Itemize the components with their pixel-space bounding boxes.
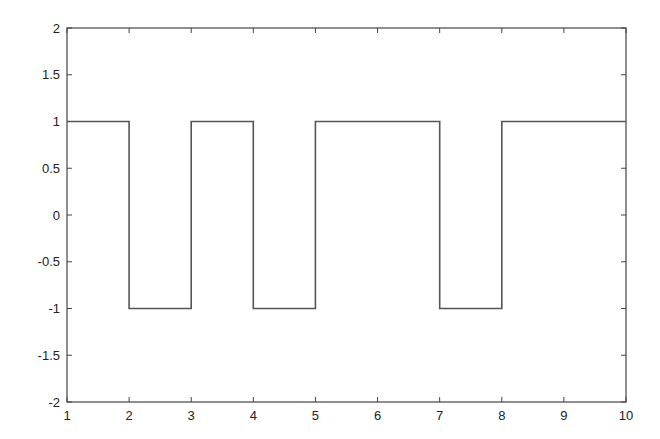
x-tick-label: 9: [560, 408, 567, 423]
x-tick-label: 3: [188, 408, 195, 423]
x-axis: 12345678910: [63, 28, 633, 423]
y-tick-label: 0: [53, 208, 60, 223]
square-wave-line: [67, 122, 626, 309]
axes-box: [67, 28, 626, 402]
chart: 21.510.50-0.5-1-1.5-2 12345678910: [0, 0, 660, 439]
x-tick-label: 5: [312, 408, 319, 423]
y-tick-label: -1: [48, 301, 60, 316]
plot-frame: [67, 28, 626, 402]
x-tick-label: 10: [619, 408, 633, 423]
y-tick-label: -0.5: [38, 254, 60, 269]
x-tick-label: 2: [125, 408, 132, 423]
x-tick-label: 6: [374, 408, 381, 423]
y-tick-label: 1.5: [42, 67, 60, 82]
x-tick-label: 1: [63, 408, 70, 423]
y-tick-label: 1: [53, 114, 60, 129]
y-tick-label: 0.5: [42, 161, 60, 176]
y-tick-label: -1.5: [38, 348, 60, 363]
x-tick-label: 8: [498, 408, 505, 423]
y-tick-label: -2: [48, 395, 60, 410]
y-axis: 21.510.50-0.5-1-1.5-2: [38, 21, 626, 410]
y-tick-label: 2: [53, 21, 60, 36]
data-series: [67, 122, 626, 309]
x-tick-label: 7: [436, 408, 443, 423]
x-tick-label: 4: [250, 408, 257, 423]
